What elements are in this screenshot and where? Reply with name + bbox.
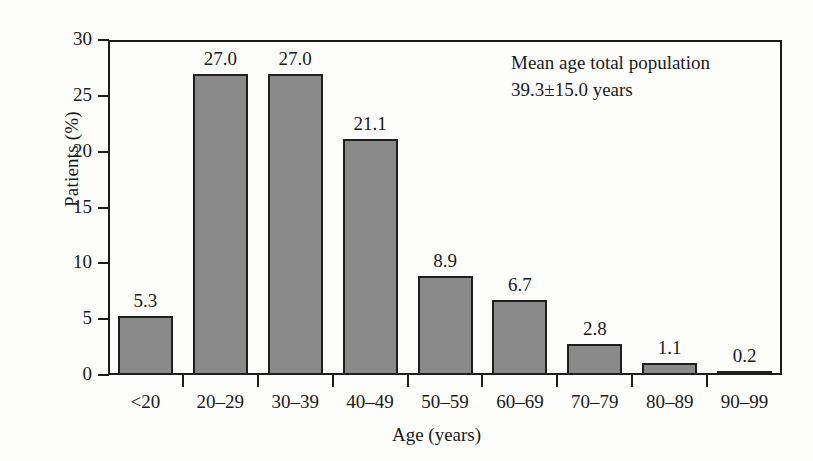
bar-value-label: 2.8 [583,318,607,340]
x-axis-tick-mark [182,375,184,387]
bar [567,344,622,375]
y-axis-tick-label: 0 [83,363,93,385]
bar [343,139,398,375]
mean-age-annotation: Mean age total population 39.3±15.0 year… [511,50,710,104]
bar [492,300,547,375]
x-axis-tick-mark [481,375,483,387]
bar-value-label: 1.1 [658,337,682,359]
x-axis-tick-label: 40–49 [346,391,394,413]
x-axis-tick-mark [332,375,334,387]
bar-value-label: 27.0 [204,48,237,70]
bar-value-label: 27.0 [279,48,312,70]
x-axis-tick-label: 70–79 [571,391,619,413]
x-axis-tick-label: 80–89 [646,391,694,413]
y-axis-tick-label: 30 [73,28,92,50]
bar [642,363,697,375]
bar [717,371,772,375]
annotation-line-1: Mean age total population [511,50,710,77]
y-axis-tick-label: 20 [73,140,92,162]
x-axis-tick-mark [631,375,633,387]
y-axis-tick-label: 25 [73,84,92,106]
x-axis-tick-mark [556,375,558,387]
y-axis-tick-label: 10 [73,251,92,273]
bar-chart-figure: Patients (%) 051015202530 5.327.027.021.… [0,0,813,461]
x-axis-tick-label: 30–39 [271,391,319,413]
x-axis-tick-label: 20–29 [197,391,245,413]
bar-value-label: 6.7 [508,274,532,296]
x-axis-title: Age (years) [0,424,813,446]
y-axis-tick-label: 5 [83,307,93,329]
bar-value-label: 5.3 [134,290,158,312]
bar-value-label: 21.1 [353,113,386,135]
x-axis-tick-mark [257,375,259,387]
x-axis-tick-label: <20 [131,391,161,413]
bar [118,316,173,375]
bar-value-label: 0.2 [733,345,757,367]
annotation-line-2: 39.3±15.0 years [511,77,710,104]
bar [418,276,473,375]
x-axis-tick-mark [407,375,409,387]
x-axis-tick-label: 50–59 [421,391,469,413]
x-axis-tick-label: 60–69 [496,391,544,413]
x-axis-tick-label: 90–99 [721,391,769,413]
bar [268,74,323,376]
y-axis-tick-label: 15 [73,196,92,218]
bar-value-label: 8.9 [433,250,457,272]
x-axis-tick-mark [706,375,708,387]
bar [193,74,248,376]
